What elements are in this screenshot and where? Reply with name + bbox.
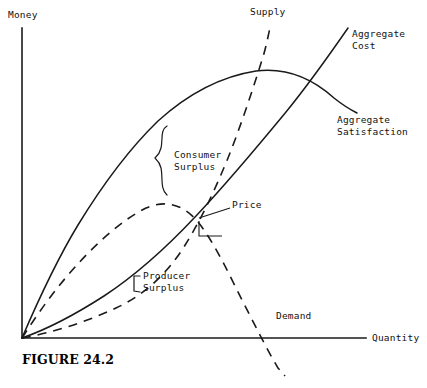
supply-label: Supply	[250, 6, 286, 18]
producer-surplus-label: ProducerSurplus	[143, 270, 190, 293]
producer-surplus-label-line2: Surplus	[143, 282, 184, 293]
aggregate-cost-label-line2: Cost	[352, 40, 376, 51]
figure-caption: FIGURE 24.2	[22, 352, 114, 367]
aggregate-cost-label: AggregateCost	[352, 28, 405, 51]
aggregate-satisfaction-label-line2: Satisfaction	[337, 126, 408, 137]
consumer-surplus-brace	[155, 126, 167, 195]
consumer-surplus-label: ConsumerSurplus	[174, 149, 221, 172]
consumer-surplus-label-line1: Consumer	[174, 149, 221, 160]
aggregate-satisfaction-label: AggregateSatisfaction	[337, 114, 408, 137]
price-label: Price	[232, 199, 262, 211]
aggregate-satisfaction-label-line1: Aggregate	[337, 114, 390, 125]
y-axis-label: Money	[8, 9, 38, 21]
aggregate-satisfaction-curve	[22, 70, 357, 338]
demand-label: Demand	[276, 310, 312, 322]
producer-surplus-bracket	[134, 276, 140, 292]
producer-surplus-label-line1: Producer	[143, 270, 190, 281]
consumer-surplus-label-line2: Surplus	[174, 161, 215, 172]
economics-diagram	[0, 0, 427, 388]
aggregate-cost-label-line1: Aggregate	[352, 28, 405, 39]
figure-container: Money Quantity Supply Demand AggregateCo…	[0, 0, 427, 388]
x-axis-label: Quantity	[372, 332, 419, 344]
